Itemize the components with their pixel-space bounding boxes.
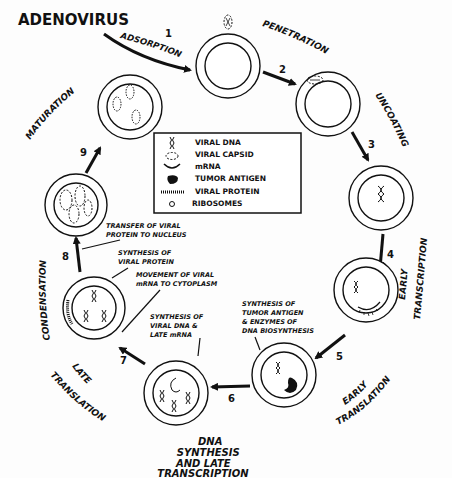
stage-number-6: 6 [228, 393, 235, 404]
stage-5-cell [252, 343, 316, 407]
stage-label-penetration: PENETRATION [261, 18, 330, 56]
stage-label-early-transcription-line2: TRANSCRIPTION [412, 237, 429, 320]
legend-label-viral-dna: VIRAL DNA [195, 138, 241, 147]
arrow-maturation [86, 148, 100, 173]
viral-capsid-icon [224, 15, 232, 29]
stage-number-8: 8 [62, 251, 69, 262]
stage-8-cell [45, 174, 107, 236]
stage-label-early-transcription: EARLY [397, 267, 410, 300]
stage-number-2: 2 [279, 64, 286, 75]
arrow-condensation [76, 238, 80, 272]
stage-9-cell [98, 75, 162, 139]
annotation-transfer: TRANSFER OF VIRAL PROTEIN TO NUCLEUS [106, 222, 187, 239]
stage-4-cell [334, 258, 398, 322]
stage-label-late-translation-line2: TRANSLATION [49, 370, 108, 423]
pointer-synth-tumor [255, 337, 260, 350]
arrow-dna-synthesis [212, 386, 250, 387]
legend-label-ribosomes: RIBOSOMES [192, 199, 242, 208]
stage-label-uncoating: UNCOATING [373, 91, 410, 149]
stage-2-cell [296, 72, 360, 136]
annotation-synth-dna: SYNTHESIS OF VIRAL DNA & LATE mRNA [150, 313, 205, 339]
stage-number-7: 7 [120, 355, 127, 366]
arrow-uncoating [352, 132, 368, 160]
pointer-synth-dna [198, 338, 200, 356]
stage-3-cell [349, 166, 413, 230]
legend-label-viral-capsid: VIRAL CAPSID [195, 150, 254, 159]
annotation-movement: MOVEMENT OF VIRAL mRNA TO CYTOPLASM [136, 271, 218, 288]
stage-number-1: 1 [165, 28, 172, 39]
legend-label-tumor-antigen: TUMOR ANTIGEN [195, 174, 266, 183]
pointer-transfer [82, 240, 120, 249]
legend-label-viral-protein: VIRAL PROTEIN [195, 187, 260, 196]
annotation-synth-protein: SYNTHESIS OF VIRAL PROTEIN [118, 249, 174, 266]
svg-text:EARLY: EARLY [397, 267, 410, 300]
annotation-synth-tumor: SYNTHESIS OF TUMOR ANTIGEN & ENZYMES OF … [242, 300, 314, 335]
stage-1-cell [196, 15, 260, 98]
stage-label-condensation: CONDENSATION [37, 259, 52, 341]
stage-number-9: 9 [80, 147, 87, 158]
stage-number-3: 3 [368, 139, 375, 150]
legend: VIRAL DNA VIRAL CAPSID mRNA TUMOR ANTIGE… [154, 133, 301, 213]
stage-label-late-translation: LATE [70, 361, 94, 386]
pointer-synth-protein [112, 268, 128, 278]
stage-number-5: 5 [336, 351, 343, 362]
stage-label-dna-synthesis: DNA SYNTHESIS AND LATE TRANSCRIPTION [157, 436, 249, 478]
svg-text:TRANSCRIPTION: TRANSCRIPTION [412, 237, 429, 320]
stage-number-4: 4 [387, 249, 394, 260]
adenovirus-lifecycle-diagram: ADENOVIRUS 1 ADSORPTION PENETRATION 2 UN… [0, 0, 452, 478]
stage-label-maturation: MATURATION [23, 85, 76, 141]
legend-label-mrna: mRNA [195, 162, 221, 171]
stage-6-cell [144, 361, 208, 425]
diagram-title: ADENOVIRUS [18, 11, 129, 29]
stage-label-adsorption: ADSORPTION [119, 30, 183, 59]
stage-7-cell [63, 277, 125, 339]
